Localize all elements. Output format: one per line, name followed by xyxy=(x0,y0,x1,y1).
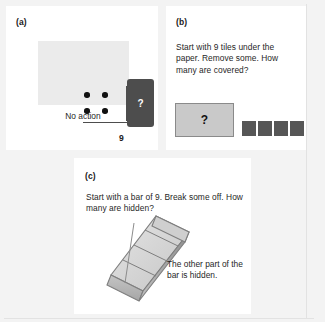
panel-a-caption: No action xyxy=(22,111,144,121)
panel-b-tile-row xyxy=(242,121,304,136)
tile-square xyxy=(290,121,304,136)
dot-icon xyxy=(84,92,90,98)
figure-guide-horizontal xyxy=(4,318,314,319)
tile-square xyxy=(242,121,256,136)
panel-b-label: (b) xyxy=(176,17,187,27)
tile-square xyxy=(258,121,272,136)
panel-c-label: (c) xyxy=(85,171,96,181)
dot-icon xyxy=(102,92,108,98)
figure-container: (a) ? 9 No action (b) Start with 9 tiles… xyxy=(0,0,325,322)
panel-b-prompt: Start with 9 tiles under the paper. Remo… xyxy=(176,42,298,76)
panel-a-gray-mat: ? 9 xyxy=(38,41,129,105)
panel-c-note: The other part of the bar is hidden. xyxy=(167,259,247,282)
panel-c-cube-bar-icon xyxy=(104,212,200,304)
panel-b-cover-paper: ? xyxy=(175,103,234,137)
figure-guide-vertical xyxy=(306,4,307,318)
panel-a-label: (a) xyxy=(16,17,27,27)
tile-square xyxy=(274,121,288,136)
panel-a-horizontal-rule xyxy=(83,122,131,123)
panel-a-total-label: 9 xyxy=(76,133,167,143)
